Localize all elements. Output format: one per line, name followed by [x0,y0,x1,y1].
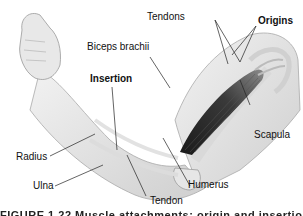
hand [20,13,61,79]
label-ulna: Ulna [33,181,54,191]
label-insertion: Insertion [90,74,132,84]
label-scapula: Scapula [254,130,290,140]
figure-caption: FIGURE 1.22 Muscle attachments: origin a… [0,209,303,216]
label-humerus: Humerus [188,180,229,190]
label-origins: Origins [258,16,293,26]
label-biceps-brachii: Biceps brachii [87,42,149,52]
label-tendon: Tendon [150,196,183,206]
label-radius: Radius [16,152,47,162]
label-tendons: Tendons [147,12,185,22]
